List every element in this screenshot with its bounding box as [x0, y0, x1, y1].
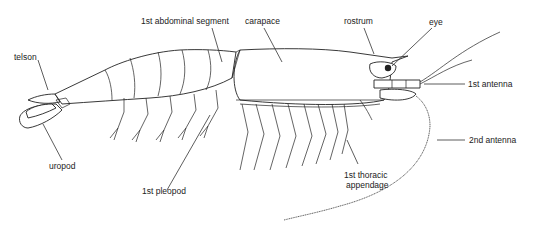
antenna1-flagella — [420, 32, 500, 84]
label-telson: telson — [14, 52, 37, 62]
thoracic-appendages — [236, 100, 384, 170]
label-carapace: carapace — [245, 16, 280, 26]
label-appendage: appendage — [346, 180, 389, 190]
uropod-shape — [19, 104, 62, 128]
label-2nd-antenna: 2nd antenna — [469, 135, 516, 145]
crustacean-diagram: telson 1st abdominal segment carapace ro… — [0, 0, 534, 236]
eye-dot — [385, 65, 391, 71]
telson-shape — [28, 94, 60, 103]
crustacean-drawing — [0, 0, 534, 236]
antenna2-flagellum — [284, 96, 430, 220]
label-eye: eye — [429, 17, 443, 27]
label-1st-thoracic: 1st thoracic — [344, 170, 387, 180]
label-1st-antenna: 1st antenna — [468, 79, 512, 89]
label-1st-abdominal-segment: 1st abdominal segment — [141, 16, 229, 26]
label-rostrum: rostrum — [344, 16, 373, 26]
label-uropod: uropod — [49, 161, 75, 171]
abdomen-shape — [55, 50, 236, 108]
label-1st-pleopod: 1st pleopod — [142, 186, 186, 196]
